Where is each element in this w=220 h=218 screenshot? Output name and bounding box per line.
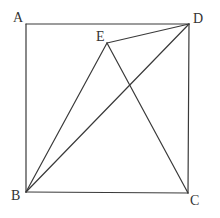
segment-EC	[107, 43, 188, 193]
label-E: E	[96, 30, 105, 44]
segment-DC	[188, 24, 189, 193]
label-A: A	[13, 11, 23, 25]
figure-drawing	[0, 0, 220, 218]
geometry-figure: A D E B C	[0, 0, 220, 218]
label-B: B	[11, 189, 20, 203]
segment-BD	[26, 24, 189, 192]
label-C: C	[190, 194, 199, 208]
segment-CB	[26, 192, 188, 193]
segment-EB	[26, 43, 107, 192]
segment-ED	[107, 24, 189, 43]
label-D: D	[193, 12, 203, 26]
